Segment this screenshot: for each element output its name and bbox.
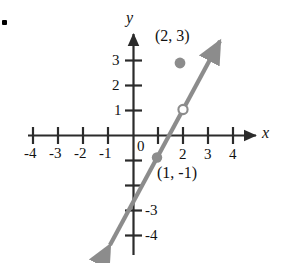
origin-label: 0 — [137, 139, 145, 154]
x-tick-label--2: -2 — [74, 146, 87, 161]
point-label-2-3: (2, 3) — [155, 28, 190, 44]
filled-point-2-3 — [175, 58, 186, 69]
y-tick-label-1: 1 — [114, 103, 122, 118]
x-tick-label-4: 4 — [229, 147, 237, 162]
function-line — [110, 41, 220, 245]
x-tick-label--4: -4 — [24, 146, 37, 161]
filled-point-1-neg1 — [152, 152, 162, 162]
x-axis-label: x — [262, 125, 269, 141]
y-tick-label--3: -3 — [145, 203, 158, 218]
open-point-2-1 — [178, 105, 187, 114]
x-tick-label-2: 2 — [179, 147, 187, 162]
y-tick-label--4: -4 — [145, 228, 158, 243]
x-tick-label-3: 3 — [204, 147, 212, 162]
coordinate-plane-svg — [0, 0, 286, 263]
y-tick-label-3: 3 — [112, 53, 120, 68]
y-axis-label: y — [126, 10, 133, 26]
point-label-1-neg1: (1, -1) — [157, 165, 197, 181]
y-tick-label-2: 2 — [112, 78, 120, 93]
x-tick-label--3: -3 — [49, 146, 62, 161]
x-tick-label--1: -1 — [99, 146, 112, 161]
graph-figure: x y 0 -4 -3 -2 -1 2 3 4 3 2 1 -3 -4 (2, … — [0, 0, 286, 263]
